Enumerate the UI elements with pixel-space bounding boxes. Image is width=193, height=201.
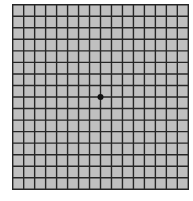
grid bbox=[12, 4, 189, 190]
grid-lines bbox=[12, 4, 189, 190]
amsler-grid-figure bbox=[0, 0, 193, 201]
fixation-dot bbox=[98, 94, 104, 100]
